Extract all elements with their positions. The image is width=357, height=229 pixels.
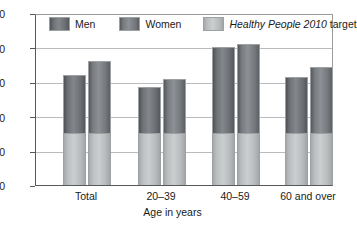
bar-40-59-men [212, 47, 235, 185]
bar-60-and-over-men [285, 77, 308, 185]
bar-segment-target [89, 133, 110, 185]
legend-item-target: Healthy People 2010 target [203, 17, 356, 31]
bar-segment-target [238, 133, 259, 185]
y-tick-label-40: 40 [0, 44, 5, 54]
y-tick-label-30: 30 [0, 78, 5, 88]
y-tick-label-20: 20 [0, 113, 5, 123]
x-category-label-60-and-over: 60 and over [280, 190, 335, 202]
x-category-label-20-39: 20–39 [146, 190, 175, 202]
legend-label-target: Healthy People 2010 target [229, 18, 356, 30]
bar-20-39-men [138, 87, 161, 185]
bar-segment-upper [164, 80, 185, 134]
legend-label-target-suffix: target [327, 18, 357, 30]
bar-total-women [88, 61, 111, 185]
y-tick-label-10: 10 [0, 147, 5, 157]
legend-swatch-target-icon [203, 17, 224, 31]
y-tick-label-50: 50 [0, 9, 5, 19]
y-tick-mark-0 [30, 186, 35, 187]
y-tick-label-0: 0 [0, 181, 5, 191]
bar-total-men [63, 75, 86, 185]
chart-legend: Men Women Healthy People 2010 target [49, 17, 357, 31]
x-category-label-total: Total [75, 190, 97, 202]
bar-segment-upper [89, 62, 110, 134]
bar-segment-upper [64, 76, 85, 135]
bar-segment-target [164, 133, 185, 185]
gridline-40 [36, 48, 332, 49]
legend-label-target-emphasis: Healthy People 2010 [229, 18, 327, 30]
bar-segment-target [64, 133, 85, 185]
bar-40-59-women [237, 44, 260, 185]
legend-item-women: Women [119, 17, 181, 31]
bar-segment-target [213, 133, 234, 185]
bar-segment-target [139, 133, 160, 185]
plot-area [35, 14, 333, 186]
bar-segment-target [286, 133, 307, 185]
legend-label-women: Women [145, 18, 181, 30]
x-category-label-40-59: 40–59 [220, 190, 249, 202]
bar-20-39-women [163, 79, 186, 185]
x-axis-title: Age in years [0, 206, 345, 218]
legend-swatch-women-icon [119, 17, 140, 31]
legend-label-men: Men [75, 18, 95, 30]
bar-60-and-over-women [310, 67, 333, 185]
bar-segment-upper [213, 48, 234, 134]
bar-segment-upper [286, 78, 307, 134]
legend-swatch-men-icon [49, 17, 70, 31]
bar-segment-upper [311, 68, 332, 135]
legend-item-men: Men [49, 17, 95, 31]
bar-segment-upper [238, 45, 259, 134]
bar-segment-target [311, 133, 332, 185]
bar-segment-upper [139, 88, 160, 135]
